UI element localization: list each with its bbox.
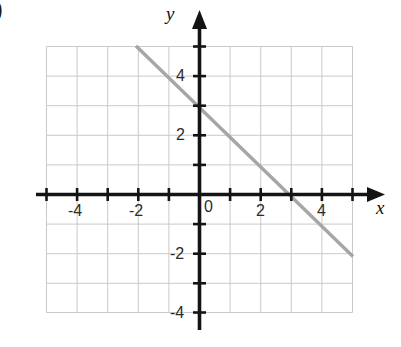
y-tick-label--2: -2 xyxy=(170,246,184,262)
x-axis-label: x xyxy=(376,198,384,217)
x-tick-label-4: 4 xyxy=(317,203,326,219)
coordinate-plane-svg xyxy=(0,0,401,347)
y-tick-label-2: 2 xyxy=(176,127,185,143)
y-tick-label-4: 4 xyxy=(176,68,185,84)
origin-label: 0 xyxy=(204,199,213,215)
x-tick-label--4: -4 xyxy=(68,203,82,219)
y-axis-label: y xyxy=(166,4,174,23)
x-tick-label-2: 2 xyxy=(256,203,265,219)
y-tick-label--4: -4 xyxy=(170,305,184,321)
x-tick-label--2: -2 xyxy=(129,203,143,219)
graph-figure: ) xyxy=(0,0,401,347)
